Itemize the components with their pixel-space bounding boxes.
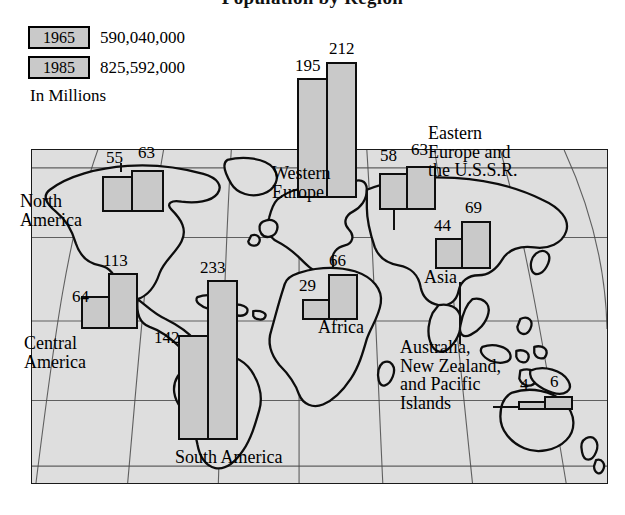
bar-group-asia: 44 69 bbox=[435, 221, 493, 269]
region-label-asia: Asia bbox=[424, 268, 457, 287]
bar-group-australia-pacific: 4 6 bbox=[518, 396, 575, 410]
bar-value-eastern-europe-ussr-1965: 58 bbox=[380, 147, 397, 164]
legend-swatch-1985: 1985 bbox=[28, 56, 90, 79]
bar-value-central-america-1985: 113 bbox=[103, 252, 128, 269]
bar-western-europe-1985 bbox=[326, 62, 357, 198]
bar-value-eastern-europe-ussr-1985: 63 bbox=[411, 141, 428, 158]
bar-group-africa: 29 66 bbox=[302, 274, 360, 320]
bar-value-north-america-1985: 63 bbox=[138, 144, 155, 161]
page-title: Population by Region bbox=[0, 0, 625, 9]
bar-value-western-europe-1965: 195 bbox=[295, 57, 321, 74]
region-label-africa: Africa bbox=[318, 318, 364, 337]
legend-value-1985: 825,592,000 bbox=[100, 58, 185, 78]
leader-line-north-america bbox=[120, 163, 122, 172]
bar-north-america-1965 bbox=[102, 176, 133, 212]
bar-north-america-1985 bbox=[131, 170, 164, 212]
bar-value-australia-pacific-1985: 6 bbox=[550, 373, 559, 390]
leader-line-eastern-europe-ussr bbox=[393, 210, 395, 230]
bar-eastern-europe-ussr-1965 bbox=[379, 173, 408, 210]
bar-group-central-america: 64 113 bbox=[81, 273, 140, 329]
legend-year-1985: 1985 bbox=[43, 60, 75, 76]
bar-group-south-america: 142 233 bbox=[178, 280, 240, 440]
legend-row-1965: 1965 590,040,000 bbox=[28, 26, 185, 49]
region-label-eastern-europe-ussr: Eastern Europe and the U.S.S.R. bbox=[428, 124, 518, 180]
bar-value-asia-1965: 44 bbox=[434, 217, 451, 234]
legend-swatch-1965: 1965 bbox=[28, 26, 90, 49]
region-label-central-america: Central America bbox=[24, 334, 86, 371]
bar-value-africa-1965: 29 bbox=[299, 277, 316, 294]
bar-australia-pacific-1965 bbox=[518, 401, 546, 410]
legend-units: In Millions bbox=[30, 86, 185, 106]
bar-value-australia-pacific-1965: 4 bbox=[520, 376, 529, 393]
bar-australia-pacific-1985 bbox=[544, 396, 573, 410]
bar-asia-1985 bbox=[461, 221, 491, 269]
bar-group-north-america: 55 63 bbox=[102, 170, 166, 212]
bar-south-america-1965 bbox=[178, 335, 209, 440]
region-label-western-europe: Western Europe bbox=[272, 164, 331, 201]
bar-central-america-1985 bbox=[108, 273, 138, 329]
region-label-south-america: South America bbox=[175, 448, 282, 467]
bar-value-africa-1985: 66 bbox=[329, 252, 346, 269]
bar-africa-1985 bbox=[328, 274, 358, 320]
bar-value-western-europe-1985: 212 bbox=[329, 40, 355, 57]
legend: 1965 590,040,000 1985 825,592,000 In Mil… bbox=[28, 26, 185, 106]
legend-value-1965: 590,040,000 bbox=[100, 28, 185, 48]
bar-asia-1965 bbox=[435, 238, 463, 269]
bar-value-asia-1985: 69 bbox=[465, 199, 482, 216]
leader-line-australia-pacific bbox=[493, 406, 519, 408]
bar-value-south-america-1985: 233 bbox=[200, 259, 226, 276]
leader-line-asia bbox=[459, 282, 461, 344]
region-label-north-america: North America bbox=[20, 192, 82, 229]
region-label-australia-pacific: Australia, New Zealand, and Pacific Isla… bbox=[400, 338, 501, 412]
bar-value-central-america-1965: 64 bbox=[72, 288, 89, 305]
legend-year-1965: 1965 bbox=[43, 30, 75, 46]
legend-row-1985: 1985 825,592,000 bbox=[28, 56, 185, 79]
bar-south-america-1985 bbox=[207, 280, 238, 440]
bar-value-south-america-1965: 142 bbox=[154, 329, 180, 346]
